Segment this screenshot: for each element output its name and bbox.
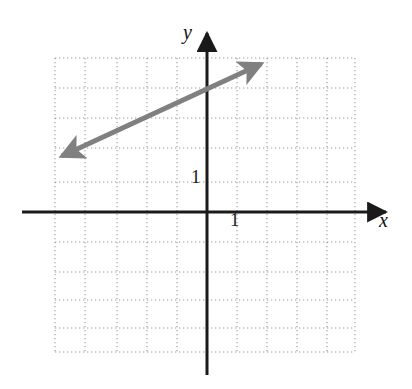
- x-axis-tick-label-1: 1: [230, 210, 240, 229]
- y-axis-label: y: [183, 22, 192, 42]
- grid-vertical-lines: [55, 58, 355, 352]
- coordinate-plane-figure: y x 1 1: [0, 0, 412, 389]
- graph-canvas: [0, 0, 412, 389]
- plotted-line: [62, 64, 261, 156]
- grid-horizontal-lines: [55, 58, 355, 352]
- x-axis-label: x: [379, 210, 388, 230]
- y-axis-tick-label-1: 1: [191, 167, 201, 186]
